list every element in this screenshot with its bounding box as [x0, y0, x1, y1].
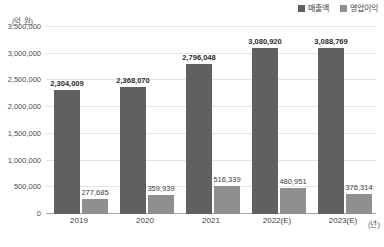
bar-group: 2,796,048 516,339: [178, 26, 244, 214]
bar-value-label: 277,685: [81, 188, 108, 197]
x-axis-labels: 2019 2020 2021 2022(E) 2023(E): [46, 216, 376, 225]
legend-label-revenue: 매출액: [308, 4, 329, 13]
bar-value-label: 3,080,920: [248, 37, 281, 46]
bar-operating-profit[interactable]: 480,951: [280, 188, 306, 214]
bar-operating-profit[interactable]: 359,939: [148, 195, 174, 214]
x-axis-unit-label: (년): [368, 218, 380, 229]
bar-operating-profit[interactable]: 516,339: [214, 186, 240, 214]
bar-value-label: 2,368,070: [116, 76, 149, 85]
y-axis-tick: 3,000,000: [8, 48, 41, 57]
y-axis-tick: 1,000,000: [8, 155, 41, 164]
y-axis-tick: 2,500,000: [8, 75, 41, 84]
bar-value-label: 376,314: [345, 183, 372, 192]
legend-item-revenue: 매출액: [298, 4, 329, 13]
bar-revenue[interactable]: 2,304,009: [54, 90, 80, 214]
square-swatch-icon: [340, 5, 347, 12]
bar-revenue[interactable]: 2,368,070: [120, 87, 146, 214]
square-swatch-icon: [298, 5, 305, 12]
bar-value-label: 3,088,769: [314, 37, 347, 46]
bar-operating-profit[interactable]: 376,314: [346, 194, 372, 214]
bar-groups: 2,304,009 277,685 2,368,070 359,939 2,79…: [46, 26, 376, 214]
x-axis-tick-2023e: 2023(E): [310, 216, 376, 225]
chart-legend: 매출액 영업이익: [298, 2, 378, 14]
bar-group: 3,088,769 376,314: [310, 26, 376, 214]
x-axis-tick-2020: 2020: [112, 216, 178, 225]
bar-revenue[interactable]: 2,796,048: [186, 64, 212, 214]
legend-label-operating-profit: 영업이익: [350, 4, 378, 13]
y-axis-tick: 500,000: [14, 182, 41, 191]
x-axis-tick-2022e: 2022(E): [244, 216, 310, 225]
x-axis-tick-2019: 2019: [46, 216, 112, 225]
bar-value-label: 359,939: [147, 184, 174, 193]
bar-revenue[interactable]: 3,080,920: [252, 48, 278, 214]
y-axis-tick: 0: [37, 209, 41, 218]
bar-revenue[interactable]: 3,088,769: [318, 48, 344, 214]
legend-item-operating-profit: 영업이익: [340, 4, 378, 13]
y-axis-tick: 1,500,000: [8, 128, 41, 137]
y-axis-tick: 2,000,000: [8, 102, 41, 111]
bar-chart: 매출액 영업이익 (억 원) 3,500,000 3,000,000 2,500…: [0, 0, 384, 247]
y-axis-tick: 3,500,000: [8, 22, 41, 31]
bar-value-label: 2,304,009: [50, 79, 83, 88]
bar-group: 3,080,920 480,951: [244, 26, 310, 214]
bar-value-label: 480,951: [279, 177, 306, 186]
bar-group: 2,368,070 359,939: [112, 26, 178, 214]
x-axis-tick-2021: 2021: [178, 216, 244, 225]
bar-group: 2,304,009 277,685: [46, 26, 112, 214]
plot-area: 3,500,000 3,000,000 2,500,000 2,000,000 …: [46, 26, 376, 214]
bar-operating-profit[interactable]: 277,685: [82, 199, 108, 214]
bar-value-label: 2,796,048: [182, 53, 215, 62]
bar-value-label: 516,339: [213, 175, 240, 184]
